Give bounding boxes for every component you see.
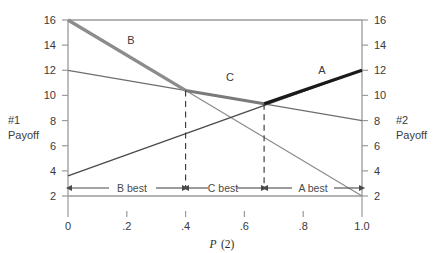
- left-axis-title-line2: Payoff: [8, 129, 40, 141]
- x-axis-title-arg: (2): [221, 238, 235, 251]
- y-tick-right-4: 4: [374, 165, 380, 177]
- x-tick-10: 1.0: [354, 220, 369, 232]
- x-tick-0: 0: [65, 220, 71, 232]
- y-tick-right-8: 8: [374, 115, 380, 127]
- region-label-a-best: A best: [298, 182, 327, 194]
- chart-canvas: 16 14 12 10 8 6 4 2 16 14 12 10 8 6: [0, 0, 440, 253]
- y-tick-right-2: 2: [374, 190, 380, 202]
- y-tick-right-14: 14: [374, 39, 386, 51]
- region-label-b-best: B best: [117, 182, 147, 194]
- x-tick-08: .8: [299, 220, 308, 232]
- curve-label-b: B: [127, 34, 134, 46]
- y-tick-left-2: 2: [50, 190, 56, 202]
- right-axis-title-line1: #2: [396, 114, 408, 126]
- right-axis-title-line2: Payoff: [396, 129, 428, 141]
- y-tick-left-8: 8: [50, 115, 56, 127]
- x-tick-02: .2: [122, 220, 131, 232]
- y-tick-right-6: 6: [374, 140, 380, 152]
- y-tick-left-14: 14: [44, 39, 56, 51]
- curve-label-c: C: [226, 71, 234, 83]
- x-axis-title: P (2): [208, 238, 234, 251]
- y-tick-left-4: 4: [50, 165, 56, 177]
- y-tick-right-10: 10: [374, 89, 386, 101]
- y-tick-left-16: 16: [44, 14, 56, 26]
- y-tick-left-10: 10: [44, 89, 56, 101]
- y-tick-right-16: 16: [374, 14, 386, 26]
- y-tick-left-6: 6: [50, 140, 56, 152]
- x-tick-06: .6: [240, 220, 249, 232]
- left-axis-title-line1: #1: [8, 114, 20, 126]
- region-label-c-best: C best: [208, 182, 238, 194]
- payoff-line-chart: 16 14 12 10 8 6 4 2 16 14 12 10 8 6: [0, 0, 440, 253]
- curve-label-a: A: [318, 64, 326, 76]
- x-tick-04: .4: [181, 220, 190, 232]
- y-tick-right-12: 12: [374, 64, 386, 76]
- y-tick-left-12: 12: [44, 64, 56, 76]
- x-axis-title-symbol: P: [208, 238, 216, 250]
